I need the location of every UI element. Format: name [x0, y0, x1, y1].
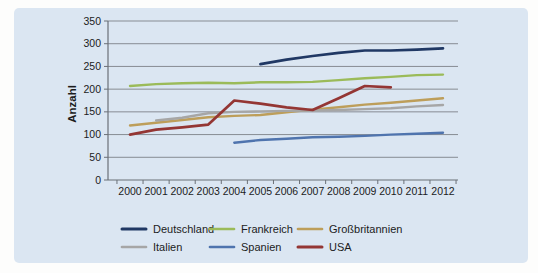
- x-tick-label: 2000: [118, 185, 142, 197]
- legend-label: Großbritannien: [329, 223, 402, 235]
- x-tick-label: 2002: [170, 185, 194, 197]
- y-tick-label: 50: [89, 151, 101, 163]
- legend-label: Italien: [153, 241, 182, 253]
- line-chart: 050100150200250300350 200020012002200320…: [14, 8, 528, 263]
- legend-item: Italien: [122, 241, 182, 253]
- x-tick-label: 2009: [353, 185, 377, 197]
- legend-item: USA: [298, 241, 352, 253]
- x-tick-label: 2005: [249, 185, 273, 197]
- y-tick-label: 200: [83, 83, 101, 95]
- y-tick-label: 150: [83, 105, 101, 117]
- y-axis: 050100150200250300350: [83, 15, 108, 186]
- y-tick-label: 100: [83, 128, 101, 140]
- legend-label: Deutschland: [153, 223, 214, 235]
- y-tick-label: 350: [83, 15, 101, 27]
- gridlines: [108, 21, 458, 157]
- figure-panel: 050100150200250300350 200020012002200320…: [14, 8, 528, 263]
- legend-item: Spanien: [210, 241, 281, 253]
- series-line-frankreich: [130, 75, 443, 86]
- series-line-deutschland: [260, 48, 443, 64]
- y-tick-label: 300: [83, 37, 101, 49]
- legend-item: Großbritannien: [298, 223, 402, 235]
- x-tick-label: 2006: [275, 185, 299, 197]
- y-tick-label: 0: [95, 174, 101, 186]
- chart-legend: DeutschlandFrankreichGroßbritannienItali…: [122, 223, 402, 253]
- legend-label: Spanien: [241, 241, 281, 253]
- legend-label: Frankreich: [241, 223, 293, 235]
- legend-item: Deutschland: [122, 223, 214, 235]
- x-tick-label: 2012: [431, 185, 455, 197]
- x-tick-label: 2007: [301, 185, 325, 197]
- legend-label: USA: [329, 241, 352, 253]
- y-tick-label: 250: [83, 60, 101, 72]
- legend-item: Frankreich: [210, 223, 293, 235]
- x-tick-label: 2001: [144, 185, 168, 197]
- x-tick-label: 2004: [223, 185, 247, 197]
- x-tick-label: 2010: [379, 185, 403, 197]
- y-axis-title: Anzahl: [66, 85, 78, 123]
- series-lines: [130, 48, 443, 142]
- x-tick-label: 2008: [327, 185, 351, 197]
- x-tick-label: 2011: [406, 185, 429, 197]
- x-tick-label: 2003: [197, 185, 221, 197]
- x-axis: 2000200120022003200420052006200720082009…: [108, 180, 458, 197]
